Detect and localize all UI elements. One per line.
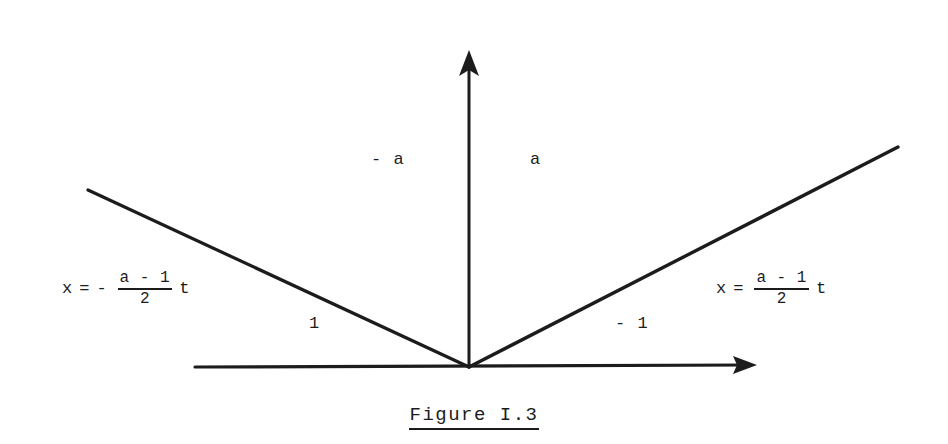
- left-eq-lhs: x: [62, 280, 72, 297]
- left-eq-sign: -: [96, 280, 106, 297]
- right-eq-variable: t: [816, 280, 826, 297]
- region-label-upper-right: a: [530, 151, 541, 168]
- right-eq-lhs: x: [716, 280, 726, 297]
- vertical-axis: [459, 50, 479, 367]
- left-eq-numerator: a - 1: [118, 270, 173, 288]
- figure-container: - a a 1 - 1 x = - a - 1 2 t x = a - 1 2 …: [0, 0, 948, 444]
- left-eq-variable: t: [179, 280, 189, 297]
- right-characteristic-ray: [469, 147, 898, 367]
- left-eq-denominator: 2: [140, 290, 150, 308]
- left-characteristic-equation: x = - a - 1 2 t: [62, 270, 189, 308]
- figure-caption-text: Figure I.3: [409, 404, 538, 430]
- right-eq-equals: =: [733, 280, 743, 297]
- left-eq-equals: =: [79, 280, 89, 297]
- right-eq-fraction: a - 1 2: [754, 270, 809, 308]
- right-characteristic-equation: x = a - 1 2 t: [716, 270, 826, 308]
- right-eq-numerator: a - 1: [754, 270, 809, 288]
- region-label-lower-left: 1: [309, 315, 320, 332]
- figure-caption: Figure I.3: [0, 404, 948, 426]
- right-eq-denominator: 2: [777, 290, 787, 308]
- region-label-upper-left: - a: [371, 151, 405, 168]
- characteristic-diagram: [0, 0, 948, 444]
- left-eq-fraction: a - 1 2: [118, 270, 173, 308]
- region-label-lower-right: - 1: [615, 315, 649, 332]
